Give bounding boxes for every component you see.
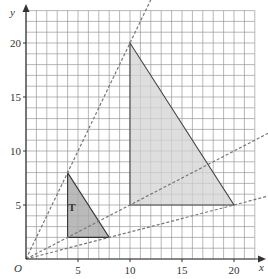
y-arrow-icon xyxy=(23,4,30,12)
x-tick-label: 20 xyxy=(229,264,241,276)
y-axis-label: y xyxy=(9,6,15,18)
enlargement-diagram: x y O T 5101520 5101520 xyxy=(0,0,268,279)
x-tick-labels: 5101520 xyxy=(75,259,240,276)
triangle-t-label: T xyxy=(68,201,76,213)
x-tick-label: 10 xyxy=(125,264,137,276)
y-tick-label: 15 xyxy=(10,91,22,103)
y-tick-label: 20 xyxy=(10,37,22,49)
x-tick-label: 15 xyxy=(177,264,189,276)
x-axis-label: x xyxy=(258,261,264,273)
y-tick-label: 5 xyxy=(16,199,22,211)
coordinate-plot: x y O T 5101520 5101520 xyxy=(0,0,268,279)
y-tick-labels: 5101520 xyxy=(10,37,26,211)
origin-label: O xyxy=(14,262,22,274)
x-tick-label: 5 xyxy=(75,264,81,276)
y-tick-label: 10 xyxy=(10,145,22,157)
